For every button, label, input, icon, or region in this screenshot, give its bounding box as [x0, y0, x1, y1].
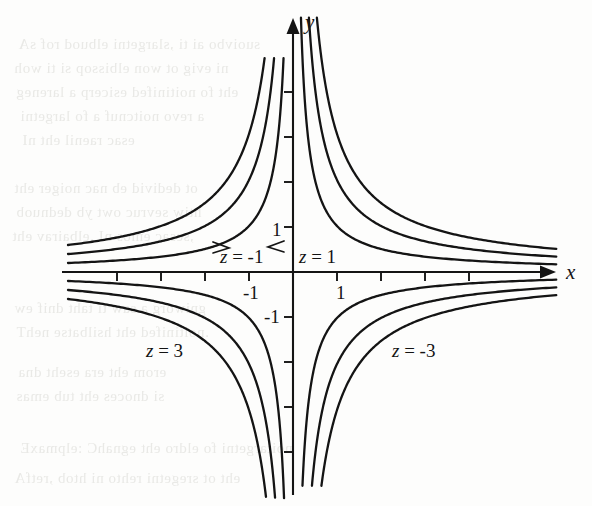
level-curve-branch	[312, 287, 556, 485]
x-tick-label-one: 1	[336, 282, 346, 304]
level-curve-branch	[321, 295, 556, 486]
curve-label-value: = -3	[399, 340, 435, 361]
leader-line-z-neg-1	[268, 241, 284, 252]
y-tick-label-neg-one: -1	[264, 306, 280, 328]
level-curve-branch	[317, 18, 556, 249]
curve-label-z-1: z = 1	[299, 246, 336, 268]
y-axis-label: y	[305, 10, 314, 35]
level-curve-branch	[309, 18, 556, 257]
plot-canvas	[0, 0, 592, 506]
level-curve-branch	[68, 58, 265, 245]
level-curve-branch	[68, 281, 284, 498]
level-curve-branch	[68, 58, 284, 263]
level-curve-branch	[68, 299, 266, 497]
curve-label-value: = 1	[306, 246, 336, 267]
curve-label-z-3: z = 3	[146, 340, 183, 362]
level-curves-figure: suoivbo ai ti ,slargetni elbuod rof sAni…	[0, 0, 592, 506]
curve-label-z-neg-1: z = -1	[220, 246, 263, 268]
x-tick-label-neg-one: -1	[243, 282, 259, 304]
curve-label-z-neg-3: z = -3	[392, 340, 435, 362]
curve-label-value: = -1	[227, 246, 263, 267]
y-axis-arrow-icon	[287, 18, 300, 34]
level-curve-branch	[302, 280, 556, 486]
curve-label-value: = 3	[153, 340, 183, 361]
y-tick-label-one: 1	[272, 219, 282, 241]
x-axis-label: x	[566, 260, 575, 285]
x-axis-arrow-icon	[540, 266, 556, 279]
level-curve-branch	[68, 58, 274, 254]
